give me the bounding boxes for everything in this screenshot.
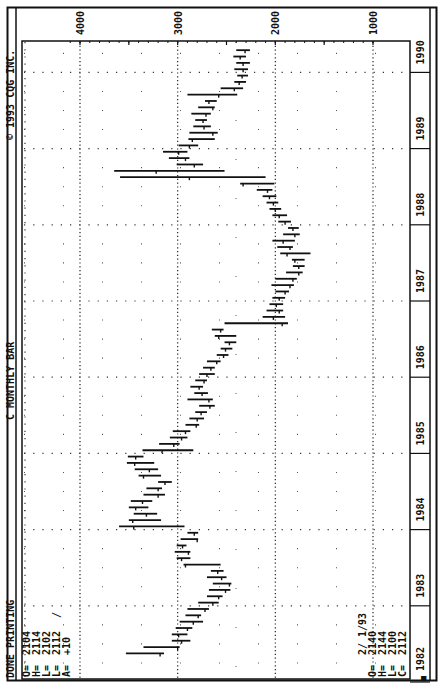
year-tick-label: 1982	[415, 647, 426, 671]
quote-current-panel: O=2104H=2114L=2102L=2112A=+10/	[21, 612, 72, 677]
tick-mark: /	[51, 612, 62, 618]
quote-label: C=	[397, 665, 408, 677]
cursor-date: 2/ 1/93	[357, 613, 368, 655]
year-tick-label: 1990	[415, 40, 426, 64]
quote-value: 2112	[397, 631, 408, 655]
year-tick-label: 1989	[415, 117, 426, 141]
year-tick-label: 1984	[415, 498, 426, 522]
corner-marker: ■	[421, 673, 427, 683]
monthly-bar-chart: 4000300020001000 19821983198419851986198…	[0, 0, 446, 688]
price-axis: 4000300020001000	[70, 11, 379, 45]
price-tick-label: 3000	[173, 11, 184, 35]
quote-cursor-panel: O=2140H=2144L=2100C=21122/ 1/93	[357, 613, 408, 677]
chart-title: C MONTHLY BAR	[5, 341, 16, 420]
year-tick-label: 1985	[415, 421, 426, 445]
year-tick-label: 1986	[415, 345, 426, 369]
copyright-text: © 1993 CQG INC.	[5, 50, 16, 140]
year-tick-label: 1987	[415, 269, 426, 293]
price-tick-label: 4000	[75, 11, 86, 35]
price-tick-label: 2000	[270, 11, 281, 35]
year-axis: 1982198319841985198619871988198919901991…	[410, 0, 430, 682]
quote-value: +10	[61, 637, 72, 655]
price-tick-label: 1000	[368, 11, 379, 35]
year-tick-label: 1983	[415, 574, 426, 598]
quote-label: A=	[61, 665, 72, 677]
status-text: DONE PRINTING	[5, 600, 16, 678]
ohlc-bars	[114, 50, 310, 656]
year-tick-label: 1988	[415, 193, 426, 217]
